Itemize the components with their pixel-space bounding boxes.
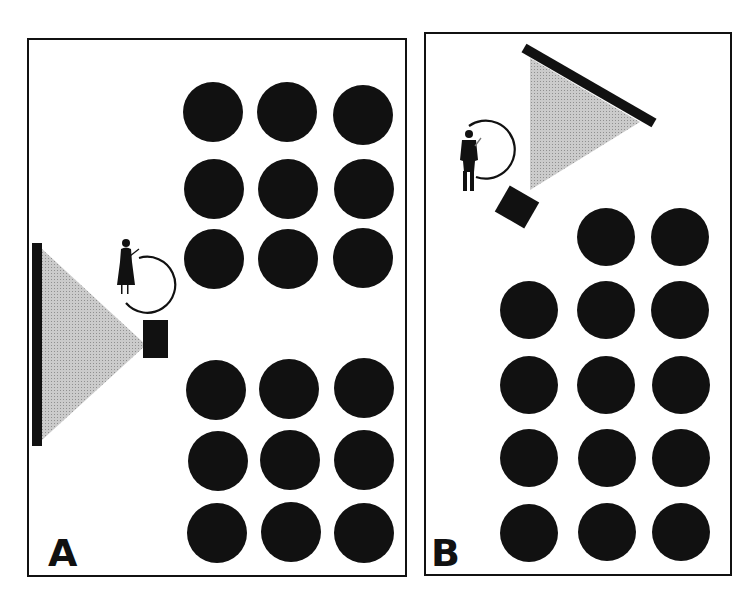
projector — [143, 320, 168, 358]
seat — [578, 429, 636, 487]
seat — [188, 431, 248, 491]
seat — [260, 430, 320, 490]
seat — [652, 429, 710, 487]
seat — [652, 503, 710, 561]
seat — [577, 356, 635, 414]
seat — [258, 229, 318, 289]
seat — [651, 208, 709, 266]
seat — [651, 281, 709, 339]
projection-screen — [32, 243, 42, 446]
seat — [259, 359, 319, 419]
seat — [500, 281, 558, 339]
seat — [334, 358, 394, 418]
seat — [187, 503, 247, 563]
figure: A — [0, 0, 751, 600]
panel-a-label: A — [48, 531, 78, 575]
seat — [257, 82, 317, 142]
seat — [500, 356, 558, 414]
seats-bottom-block — [186, 358, 394, 563]
seat — [577, 281, 635, 339]
seat — [334, 430, 394, 490]
seat — [333, 85, 393, 145]
seats-top-block — [183, 82, 394, 289]
seat — [500, 429, 558, 487]
panel-b-label: B — [431, 531, 460, 575]
panel-a: A — [28, 39, 406, 576]
seat — [333, 228, 393, 288]
seat — [261, 502, 321, 562]
seat — [184, 229, 244, 289]
seat — [577, 208, 635, 266]
seat — [334, 503, 394, 563]
seat — [334, 159, 394, 219]
seat — [186, 360, 246, 420]
panel-b: B — [425, 33, 731, 575]
seat — [258, 159, 318, 219]
seat — [652, 356, 710, 414]
seat — [500, 504, 558, 562]
seat — [578, 503, 636, 561]
seat — [184, 159, 244, 219]
seat — [183, 82, 243, 142]
